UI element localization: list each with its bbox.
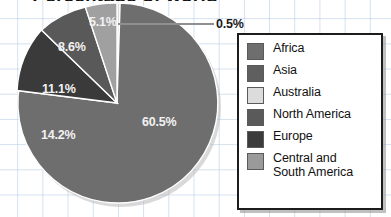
- legend-label-central-south-america: Central andSouth America: [273, 152, 353, 179]
- legend-label-europe: Europe: [273, 130, 313, 144]
- legend-label-line1: Central and: [273, 151, 337, 165]
- legend-swatch-europe: [247, 131, 264, 148]
- slice-label-north-america: 8.6%: [58, 40, 86, 54]
- slice-label-asia: 5.1%: [89, 15, 117, 29]
- slice-label-africa: 60.5%: [142, 115, 176, 129]
- legend-item-africa[interactable]: Africa: [247, 42, 375, 60]
- callout-label-australia: 0.5%: [216, 17, 244, 31]
- legend-swatch-central-south-america: [247, 153, 264, 170]
- legend: Africa Asia Australia North America Euro…: [237, 33, 383, 210]
- legend-item-central-south-america[interactable]: Central andSouth America: [247, 152, 375, 179]
- slice-label-europe: 11.1%: [42, 82, 76, 96]
- legend-label-africa: Africa: [273, 42, 304, 56]
- legend-label-asia: Asia: [273, 64, 297, 78]
- legend-swatch-asia: [247, 65, 264, 82]
- legend-item-australia[interactable]: Australia: [247, 86, 375, 104]
- legend-item-north-america[interactable]: North America: [247, 108, 375, 126]
- legend-swatch-australia: [247, 87, 264, 104]
- legend-label-line2: South America: [273, 166, 353, 180]
- legend-swatch-north-america: [247, 109, 264, 126]
- legend-label-north-america: North America: [273, 108, 351, 122]
- legend-item-asia[interactable]: Asia: [247, 64, 375, 82]
- slice-label-central-south-america: 14.2%: [41, 128, 75, 142]
- legend-swatch-africa: [247, 43, 264, 60]
- legend-item-europe[interactable]: Europe: [247, 130, 375, 148]
- legend-label-australia: Australia: [273, 86, 321, 100]
